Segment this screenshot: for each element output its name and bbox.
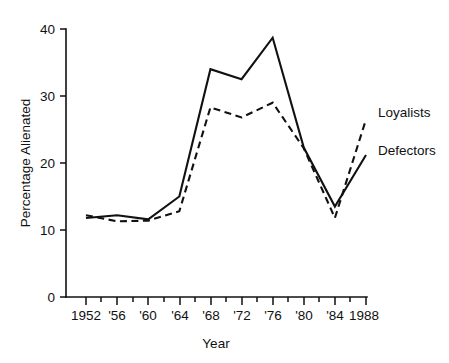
x-tick-label-1972: '72 [233, 308, 251, 323]
x-tick-label-1968: '68 [202, 308, 220, 323]
x-tick-label-1988: 1988 [349, 308, 379, 323]
x-tick-label-1956: '56 [108, 308, 126, 323]
series-label-defectors: Defectors [378, 143, 436, 158]
x-tick-label-1960: '60 [139, 308, 157, 323]
x-tick-label-1976: '76 [264, 308, 282, 323]
line-chart: 40 30 20 10 0 Percentage Alienated [0, 0, 449, 363]
x-tick-label-1984: '84 [326, 308, 344, 323]
y-tick-label-30: 30 [40, 89, 55, 104]
x-tick-label-1964: '64 [171, 308, 189, 323]
y-tick-label-0: 0 [47, 290, 55, 305]
x-tick-label-1980: '80 [295, 308, 313, 323]
series-label-loyalists: Loyalists [378, 105, 431, 120]
y-tick-label-10: 10 [40, 223, 55, 238]
y-axis-ticks [60, 29, 66, 297]
chart-canvas: 40 30 20 10 0 Percentage Alienated [0, 0, 449, 363]
y-tick-label-40: 40 [40, 22, 55, 37]
series-line-loyalists [86, 103, 366, 222]
y-axis-title: Percentage Alienated [18, 99, 33, 227]
y-tick-label-20: 20 [40, 156, 55, 171]
x-axis-title: Year [202, 336, 230, 351]
x-tick-label-1952: 1952 [71, 308, 101, 323]
